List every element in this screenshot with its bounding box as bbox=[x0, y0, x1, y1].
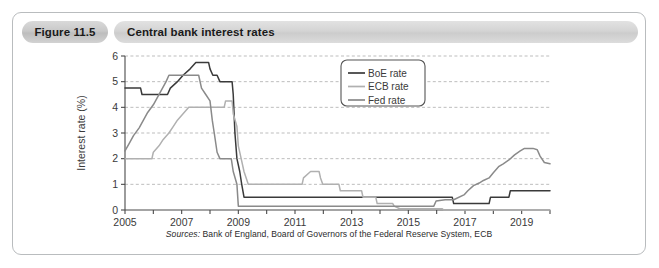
y-axis-ticks bbox=[121, 56, 125, 210]
svg-text:0: 0 bbox=[112, 204, 118, 216]
svg-text:ECB rate: ECB rate bbox=[368, 81, 409, 92]
svg-text:3: 3 bbox=[112, 127, 118, 139]
figure-card: Figure 11.5 Central bank interest rates … bbox=[12, 12, 646, 255]
figure-header: Figure 11.5 Central bank interest rates bbox=[22, 21, 638, 43]
x-axis-tick-labels: 20052007200920112013201520172019 bbox=[113, 216, 533, 228]
svg-text:2: 2 bbox=[112, 152, 118, 164]
y-axis-tick-labels: 0123456 bbox=[112, 50, 118, 216]
svg-text:2017: 2017 bbox=[453, 216, 477, 228]
chart-legend: BoE rateECB rateFed rate bbox=[341, 60, 425, 106]
svg-text:2011: 2011 bbox=[284, 216, 307, 228]
svg-text:1: 1 bbox=[112, 178, 118, 190]
source-label: Sources: bbox=[166, 229, 200, 239]
svg-text:Interest rate (%): Interest rate (%) bbox=[75, 95, 87, 170]
svg-text:2005: 2005 bbox=[113, 216, 137, 228]
svg-text:2009: 2009 bbox=[227, 216, 251, 228]
figure-number-badge: Figure 11.5 bbox=[22, 21, 108, 43]
y-axis-title: Interest rate (%) bbox=[75, 95, 87, 170]
svg-text:2007: 2007 bbox=[170, 216, 194, 228]
svg-text:BoE rate: BoE rate bbox=[368, 68, 407, 79]
figure-title-bar: Central bank interest rates bbox=[114, 21, 638, 43]
source-text: Bank of England, Board of Governors of t… bbox=[200, 229, 492, 239]
interest-rate-line-chart: 0123456 20052007200920112013201520172019… bbox=[13, 46, 645, 232]
figure-title: Central bank interest rates bbox=[114, 26, 275, 38]
chart-area: 0123456 20052007200920112013201520172019… bbox=[13, 46, 645, 232]
svg-text:4: 4 bbox=[112, 101, 118, 113]
svg-text:5: 5 bbox=[112, 75, 118, 87]
source-note: Sources: Bank of England, Board of Gover… bbox=[13, 229, 645, 239]
svg-text:2015: 2015 bbox=[397, 216, 421, 228]
svg-text:2013: 2013 bbox=[340, 216, 364, 228]
svg-text:6: 6 bbox=[112, 50, 118, 62]
svg-text:Fed rate: Fed rate bbox=[368, 95, 406, 106]
data-series bbox=[125, 62, 550, 210]
svg-text:2019: 2019 bbox=[510, 216, 534, 228]
